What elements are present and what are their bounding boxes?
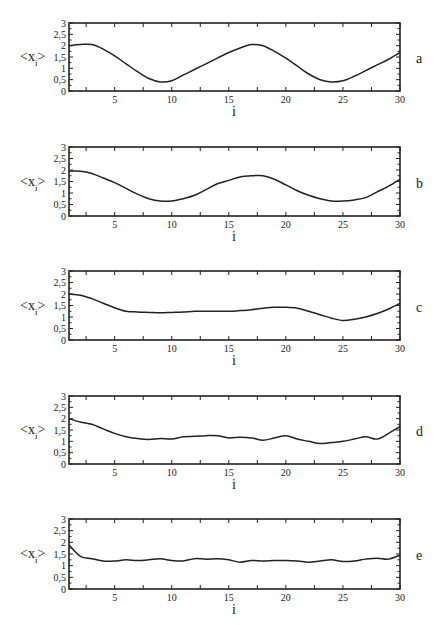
series-line-d bbox=[69, 419, 400, 444]
y-axis-title: <xi> bbox=[20, 49, 45, 68]
x-tick-label: 10 bbox=[167, 467, 177, 478]
plot-frame bbox=[69, 147, 400, 216]
x-tick-label: 25 bbox=[338, 94, 348, 105]
panel-b: 00,511,522,5351015202530i<xi>b bbox=[20, 142, 423, 245]
panel-a: 00,511,522,5351015202530i<xi>a bbox=[20, 18, 423, 120]
y-tick-label: 1,5 bbox=[54, 425, 67, 436]
x-axis-title: i bbox=[232, 353, 236, 368]
y-tick-label: 2 bbox=[61, 413, 66, 424]
panel-label: c bbox=[416, 300, 422, 315]
y-axis-title: <xi> bbox=[20, 546, 45, 565]
y-tick-label: 2,5 bbox=[54, 29, 67, 40]
y-tick-label: 0,5 bbox=[54, 199, 67, 210]
x-tick-label: 5 bbox=[112, 592, 117, 603]
y-tick-label: 2,5 bbox=[54, 402, 67, 413]
x-tick-label: 10 bbox=[167, 592, 177, 603]
panel-e: 00,511,522,5351015202530i<xi>e bbox=[20, 514, 422, 618]
y-tick-label: 2,5 bbox=[54, 153, 67, 164]
x-tick-label: 25 bbox=[338, 592, 348, 603]
y-tick-label: 0 bbox=[61, 86, 66, 97]
panel-label: a bbox=[416, 51, 423, 66]
x-tick-label: 30 bbox=[395, 94, 405, 105]
y-axis-title: <xi> bbox=[20, 422, 45, 441]
x-tick-label: 25 bbox=[338, 219, 348, 230]
y-tick-label: 0 bbox=[61, 335, 66, 346]
panel-d: 00,511,522,5351015202530i<xi>d bbox=[20, 391, 423, 493]
x-tick-label: 10 bbox=[167, 94, 177, 105]
y-tick-label: 2 bbox=[61, 289, 66, 300]
plot-frame bbox=[69, 23, 400, 91]
x-tick-label: 20 bbox=[281, 94, 291, 105]
y-tick-label: 0 bbox=[61, 211, 66, 222]
y-tick-label: 1 bbox=[61, 312, 66, 323]
x-tick-label: 25 bbox=[338, 467, 348, 478]
x-tick-label: 20 bbox=[281, 219, 291, 230]
y-tick-label: 2 bbox=[61, 165, 66, 176]
x-tick-label: 20 bbox=[281, 592, 291, 603]
y-tick-label: 1,5 bbox=[54, 300, 67, 311]
series-line-b bbox=[69, 171, 400, 201]
x-axis-title: i bbox=[232, 229, 236, 244]
x-tick-label: 20 bbox=[281, 343, 291, 354]
y-tick-label: 1,5 bbox=[54, 549, 67, 560]
y-tick-label: 2,5 bbox=[54, 525, 67, 536]
x-tick-label: 10 bbox=[167, 219, 177, 230]
y-tick-label: 1 bbox=[61, 63, 66, 74]
x-tick-label: 20 bbox=[281, 467, 291, 478]
y-tick-label: 2 bbox=[61, 40, 66, 51]
x-tick-label: 5 bbox=[112, 94, 117, 105]
panel-label: e bbox=[416, 548, 422, 563]
series-line-c bbox=[69, 294, 400, 320]
y-tick-label: 0,5 bbox=[54, 74, 67, 85]
plot-frame bbox=[69, 271, 400, 340]
x-tick-label: 25 bbox=[338, 343, 348, 354]
x-tick-label: 30 bbox=[395, 592, 405, 603]
y-tick-label: 0 bbox=[61, 459, 66, 470]
y-tick-label: 3 bbox=[61, 142, 66, 153]
y-tick-label: 3 bbox=[61, 391, 66, 402]
panel-label: b bbox=[416, 176, 423, 191]
y-tick-label: 3 bbox=[61, 18, 66, 29]
series-line-a bbox=[69, 44, 400, 82]
y-tick-label: 0,5 bbox=[54, 447, 67, 458]
y-tick-label: 1 bbox=[61, 436, 66, 447]
x-axis-title: i bbox=[232, 477, 236, 492]
x-tick-label: 5 bbox=[112, 219, 117, 230]
y-tick-label: 2 bbox=[61, 537, 66, 548]
y-tick-label: 1,5 bbox=[54, 52, 67, 63]
y-axis-title: <xi> bbox=[20, 298, 45, 317]
plot-frame bbox=[69, 519, 400, 589]
y-tick-label: 3 bbox=[61, 514, 66, 525]
x-tick-label: 30 bbox=[395, 343, 405, 354]
y-tick-label: 0 bbox=[61, 584, 66, 595]
series-line-e bbox=[69, 545, 400, 563]
y-tick-label: 1 bbox=[61, 188, 66, 199]
y-axis-title: <xi> bbox=[20, 174, 45, 193]
x-tick-label: 30 bbox=[395, 219, 405, 230]
y-tick-label: 0,5 bbox=[54, 323, 67, 334]
y-tick-label: 1,5 bbox=[54, 176, 67, 187]
x-tick-label: 5 bbox=[112, 343, 117, 354]
x-tick-label: 10 bbox=[167, 343, 177, 354]
chart-figure: 00,511,522,5351015202530i<xi>a00,511,522… bbox=[0, 0, 439, 625]
y-tick-label: 3 bbox=[61, 266, 66, 277]
y-tick-label: 2,5 bbox=[54, 277, 67, 288]
plot-frame bbox=[69, 396, 400, 464]
panel-label: d bbox=[416, 424, 423, 439]
y-tick-label: 0,5 bbox=[54, 572, 67, 583]
x-axis-title: i bbox=[232, 104, 236, 119]
panel-c: 00,511,522,5351015202530i<xi>c bbox=[20, 266, 422, 369]
x-axis-title: i bbox=[232, 602, 236, 617]
y-tick-label: 1 bbox=[61, 560, 66, 571]
x-tick-label: 5 bbox=[112, 467, 117, 478]
x-tick-label: 30 bbox=[395, 467, 405, 478]
